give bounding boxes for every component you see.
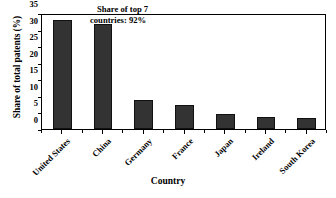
y-tick-label: 15 xyxy=(22,66,38,74)
x-tick-mark xyxy=(61,130,62,134)
y-axis-tick-labels: 05101520253035 xyxy=(22,0,38,140)
x-tick-mark-boundary xyxy=(41,130,42,133)
y-tick-label: 0 xyxy=(22,116,38,124)
plot-area xyxy=(41,14,326,130)
y-tick-label: 20 xyxy=(22,50,38,58)
x-tick-mark-boundary xyxy=(163,130,164,133)
x-tick-mark xyxy=(224,130,225,134)
x-tick-label-france: France xyxy=(169,136,194,161)
bars-layer xyxy=(42,15,325,129)
y-tick-label: 5 xyxy=(22,99,38,107)
x-tick-label-germany: Germany xyxy=(122,136,154,168)
x-tick-label-south-korea: South Korea xyxy=(277,136,317,176)
x-tick-label-japan: Japan xyxy=(212,136,235,159)
x-tick-label-ireland: Ireland xyxy=(250,136,276,162)
x-tick-mark-boundary xyxy=(204,130,205,133)
bar-chart-figure: Share of total patents (%) 0510152025303… xyxy=(0,0,336,198)
y-tick-label: 25 xyxy=(22,33,38,41)
x-axis-title: Country xyxy=(0,176,336,186)
x-tick-mark-boundary xyxy=(285,130,286,133)
annotation-line-1: Share of top 7 xyxy=(90,4,148,15)
x-tick-mark-boundary xyxy=(326,130,327,133)
x-tick-mark-boundary xyxy=(82,130,83,133)
bar-ireland xyxy=(257,117,276,129)
x-tick-mark xyxy=(306,130,307,134)
y-tick-label: 30 xyxy=(22,17,38,25)
x-tick-mark xyxy=(184,130,185,134)
bar-germany xyxy=(134,100,153,129)
x-tick-mark xyxy=(102,130,103,134)
bar-japan xyxy=(216,114,235,129)
x-tick-mark-boundary xyxy=(245,130,246,133)
share-of-top-7-annotation: Share of top 7 countries: 92% xyxy=(90,4,148,26)
bar-china xyxy=(94,24,113,129)
y-tick-label: 35 xyxy=(22,0,38,8)
x-tick-mark xyxy=(143,130,144,134)
bar-france xyxy=(175,105,194,129)
x-tick-mark-boundary xyxy=(122,130,123,133)
annotation-line-2: countries: 92% xyxy=(90,15,148,26)
x-tick-label-china: China xyxy=(90,136,113,159)
y-axis-title: Share of total patents (%) xyxy=(12,2,22,132)
x-tick-label-united-states: United States xyxy=(31,136,73,178)
bar-united-states xyxy=(53,20,72,129)
x-tick-mark xyxy=(265,130,266,134)
bar-south-korea xyxy=(297,118,316,129)
y-tick-label: 10 xyxy=(22,83,38,91)
